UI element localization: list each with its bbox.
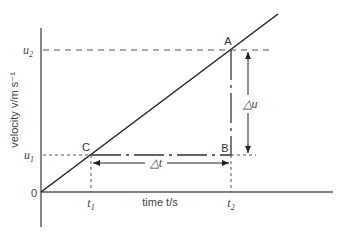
u1-label: u1 — [24, 148, 34, 164]
t2-label: t2 — [227, 196, 234, 212]
point-b-label: B — [221, 142, 228, 154]
x-axis-label: time t/s — [142, 196, 178, 208]
delta-u-label: △u — [242, 97, 258, 111]
point-c-label: C — [82, 141, 90, 153]
u2-label: u2 — [23, 43, 33, 59]
velocity-time-diagram: u2 u1 0 t1 t2 time t/s velocity v/m s⁻¹ … — [0, 0, 342, 240]
point-a-label: A — [224, 35, 232, 47]
delta-t-label: △t — [149, 156, 163, 170]
t1-label: t1 — [87, 196, 94, 212]
y-axis-label: velocity v/m s⁻¹ — [8, 72, 20, 148]
origin-label: 0 — [31, 187, 37, 199]
